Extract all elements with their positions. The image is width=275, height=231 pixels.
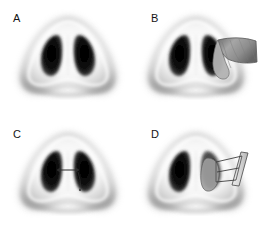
panel-label-b: B [151, 13, 158, 24]
panel-label-a: A [13, 13, 20, 24]
panel-d: D [138, 116, 275, 231]
nose-basal-illustration-a [0, 0, 137, 115]
nose-basal-illustration-b [138, 0, 275, 115]
panel-b: B [138, 0, 275, 115]
panel-label-d: D [151, 129, 159, 140]
figure-four-panel-nose-basal-view: A [0, 0, 275, 231]
panel-a: A [0, 0, 137, 115]
panel-c: C [0, 116, 137, 231]
panel-label-c: C [13, 129, 21, 140]
